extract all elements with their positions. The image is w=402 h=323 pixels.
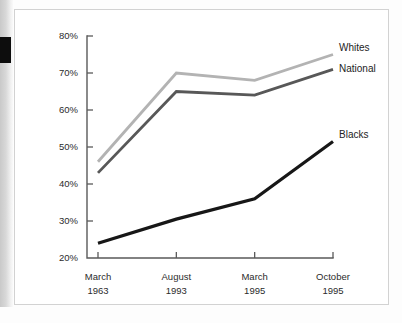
- x-tick-label: March1963: [85, 271, 111, 296]
- y-axis-tick-labels: 20%30%40%50%60%70%80%: [59, 30, 79, 263]
- chart-svg: 20%30%40%50%60%70%80% March1963August199…: [15, 10, 390, 306]
- series-line-whites: [98, 55, 333, 162]
- x-tick-label-year: 1995: [322, 285, 343, 296]
- figure-card: 20%30%40%50%60%70%80% March1963August199…: [14, 9, 389, 305]
- y-tick-label: 30%: [59, 215, 79, 226]
- y-tick-label: 40%: [59, 178, 79, 189]
- y-tick-label: 60%: [59, 104, 79, 115]
- x-tick-label-year: 1995: [244, 285, 265, 296]
- series-label-national: National: [339, 63, 376, 74]
- series-label-blacks: Blacks: [339, 129, 368, 140]
- line-chart: 20%30%40%50%60%70%80% March1963August199…: [15, 10, 390, 306]
- x-tick-label-month: October: [316, 271, 350, 282]
- x-tick-label-month: August: [162, 271, 192, 282]
- x-tick-marks: [98, 252, 333, 258]
- x-tick-label-month: March: [85, 271, 111, 282]
- series-line-blacks: [98, 141, 333, 243]
- y-tick-marks: [87, 36, 93, 221]
- scan-black-mark-artifact: [0, 37, 11, 63]
- y-tick-label: 50%: [59, 141, 79, 152]
- x-tick-label-year: 1993: [166, 285, 187, 296]
- x-tick-label: March1995: [241, 271, 267, 296]
- y-tick-label: 70%: [59, 67, 79, 78]
- x-tick-label: August1993: [162, 271, 192, 296]
- series-label-whites: Whites: [339, 42, 370, 53]
- x-tick-label: October1995: [316, 271, 350, 296]
- y-tick-label: 80%: [59, 30, 79, 41]
- y-tick-label: 20%: [59, 252, 79, 263]
- x-axis-tick-labels: March1963August1993March1995October1995: [85, 271, 350, 296]
- data-series-group: [98, 55, 333, 244]
- x-tick-label-year: 1963: [87, 285, 108, 296]
- series-inline-labels: WhitesNationalBlacks: [339, 42, 376, 141]
- x-tick-label-month: March: [241, 271, 267, 282]
- scan-bottom-edge: [0, 307, 402, 323]
